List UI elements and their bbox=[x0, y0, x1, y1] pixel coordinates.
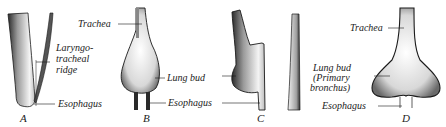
panel-b-drawing bbox=[118, 8, 166, 110]
label-laryngotracheal-ridge-line1: Laryngo- bbox=[56, 43, 93, 53]
panel-a-drawing bbox=[8, 13, 55, 107]
label-esophagus-a: Esophagus bbox=[58, 99, 102, 109]
panel-letter-a: A bbox=[20, 112, 27, 124]
panel-letter-b: B bbox=[143, 112, 150, 124]
label-lung-bud-d-line3: bronchus) bbox=[310, 83, 350, 93]
label-trachea-b: Trachea bbox=[78, 19, 111, 29]
panel-letter-d: D bbox=[402, 112, 410, 124]
label-trachea-d: Trachea bbox=[350, 23, 383, 33]
label-lung-bud-b: Lung bud bbox=[167, 73, 205, 83]
panel-c-drawing bbox=[222, 10, 300, 110]
label-esophagus-b: Esophagus bbox=[168, 98, 212, 108]
panel-letter-c: C bbox=[257, 112, 264, 124]
label-esophagus-d: Esophagus bbox=[322, 101, 366, 111]
lung-bud-development-figure: Laryngo- tracheal ridge Esophagus A Trac… bbox=[0, 0, 446, 127]
label-laryngotracheal-ridge-line3: ridge bbox=[56, 65, 77, 75]
label-laryngotracheal-ridge-line2: tracheal bbox=[56, 54, 89, 64]
